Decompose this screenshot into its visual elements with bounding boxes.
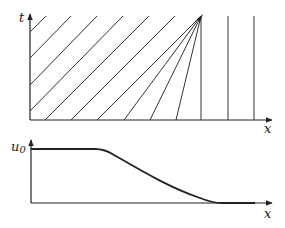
u0-curve: [31, 149, 255, 203]
x-axis-label-bottom: x: [264, 206, 272, 221]
characteristics-diagram: t x u0 x: [0, 0, 285, 228]
top-panel: [30, 14, 272, 120]
x-axis-label-top: x: [264, 121, 272, 136]
t-axis-label: t: [19, 10, 25, 25]
rarefaction-fan: [97, 14, 203, 120]
vertical-characteristics: [201, 16, 254, 120]
bottom-panel: [31, 140, 272, 203]
parallel-characteristics: [30, 16, 175, 120]
u0-axis-label: u0: [11, 139, 26, 155]
